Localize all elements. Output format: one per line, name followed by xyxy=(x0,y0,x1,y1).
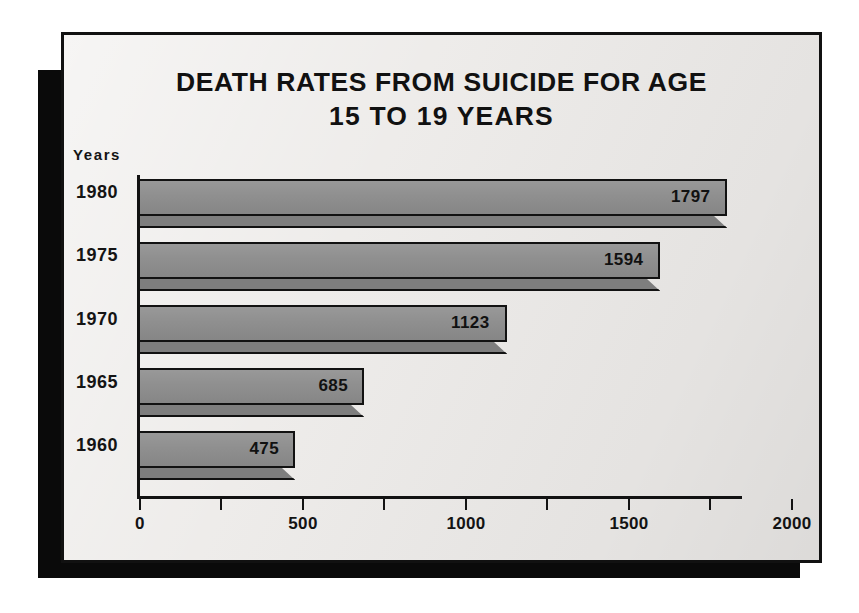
bar-value-1965: 685 xyxy=(319,376,349,396)
x-tick-major-0 xyxy=(139,499,141,510)
x-tick-label-1000: 1000 xyxy=(446,514,485,534)
y-tick-label-1970: 1970 xyxy=(76,309,118,330)
bar-value-1975: 1594 xyxy=(604,250,643,270)
x-tick-minor-1750 xyxy=(709,499,711,510)
y-tick-label-1980: 1980 xyxy=(76,182,118,203)
x-tick-label-2000: 2000 xyxy=(772,514,811,534)
bar-face-1980 xyxy=(138,179,727,216)
x-tick-major-1000 xyxy=(465,499,467,510)
bar-depth-1965 xyxy=(138,405,364,417)
bar-value-1960: 475 xyxy=(250,439,280,459)
x-tick-major-1500 xyxy=(628,499,630,510)
x-tick-minor-250 xyxy=(220,499,222,510)
y-axis-title: Years xyxy=(73,146,121,163)
x-tick-major-500 xyxy=(302,499,304,510)
y-tick-label-1965: 1965 xyxy=(76,372,118,393)
bar-depth-1960 xyxy=(138,468,295,480)
x-tick-label-0: 0 xyxy=(135,514,145,534)
x-tick-label-500: 500 xyxy=(288,514,317,534)
x-axis-line xyxy=(137,496,742,499)
x-tick-minor-1250 xyxy=(546,499,548,510)
chart-title: DEATH RATES FROM SUICIDE FOR AGE 15 TO 1… xyxy=(64,65,819,133)
bar-value-1980: 1797 xyxy=(671,187,710,207)
bar-depth-1970 xyxy=(138,342,507,354)
chart-title-line-2: 15 TO 19 YEARS xyxy=(64,99,819,133)
y-tick-label-1960: 1960 xyxy=(76,435,118,456)
x-tick-major-2000 xyxy=(791,499,793,510)
bar-depth-1980 xyxy=(138,216,727,228)
x-tick-label-1500: 1500 xyxy=(609,514,648,534)
y-tick-label-1975: 1975 xyxy=(76,245,118,266)
chart-page: DEATH RATES FROM SUICIDE FOR AGE 15 TO 1… xyxy=(0,0,859,613)
chart-card: DEATH RATES FROM SUICIDE FOR AGE 15 TO 1… xyxy=(61,32,822,563)
x-tick-minor-750 xyxy=(383,499,385,510)
bar-value-1970: 1123 xyxy=(451,313,489,333)
chart-title-line-1: DEATH RATES FROM SUICIDE FOR AGE xyxy=(64,65,819,99)
bar-face-1975 xyxy=(138,242,660,279)
bar-depth-1975 xyxy=(138,279,660,291)
